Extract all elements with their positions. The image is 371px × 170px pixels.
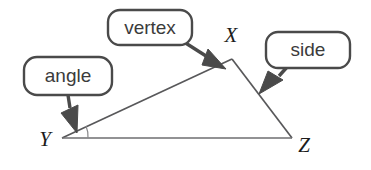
callout-angle-arrow bbox=[61, 95, 78, 133]
callout-vertex-label: vertex bbox=[124, 17, 176, 38]
callout-vertex-arrow bbox=[184, 42, 226, 69]
callout-vertex: vertex bbox=[108, 10, 226, 69]
callout-side: side bbox=[259, 32, 350, 94]
diagram-canvas: X Y Z vertex side bbox=[0, 0, 371, 170]
callout-vertex-arrow-shaft bbox=[184, 42, 206, 56]
angle-arc-y bbox=[86, 126, 88, 138]
callout-side-arrow bbox=[259, 66, 288, 94]
triangle-diagram: X Y Z vertex side bbox=[0, 0, 371, 170]
vertex-label-y: Y bbox=[39, 127, 53, 151]
callout-side-label: side bbox=[291, 39, 326, 60]
callout-angle-arrow-head bbox=[61, 105, 78, 133]
callout-vertex-arrow-head bbox=[202, 49, 226, 69]
vertex-label-z: Z bbox=[298, 133, 310, 157]
vertex-label-x: X bbox=[224, 23, 239, 47]
callout-angle-arrow-shaft bbox=[68, 95, 70, 108]
callout-angle-label: angle bbox=[45, 65, 92, 86]
